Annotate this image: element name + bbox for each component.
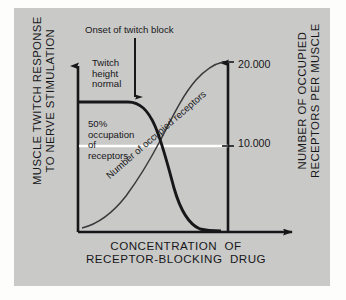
x-axis-title: CONCENTRATION OF RECEPTOR-BLOCKING DRUG [60, 239, 292, 265]
tick-label-10000: 10.000 [238, 138, 270, 150]
y-axis-left-title: MUSCLE TWITCH RESPONSE TO NERVE STIMULAT… [31, 11, 56, 191]
tick-label-20000: 20.000 [238, 59, 270, 71]
y-axis-right-title: NUMBER OF OCCUPIED RECEPTORS PER MUSCLE [296, 11, 321, 191]
twitch-height-normal-label: Twitch height normal [92, 58, 121, 90]
figure-container: MUSCLE TWITCH RESPONSE TO NERVE STIMULAT… [0, 0, 346, 300]
onset-of-twitch-block-label: Onset of twitch block [85, 25, 174, 36]
